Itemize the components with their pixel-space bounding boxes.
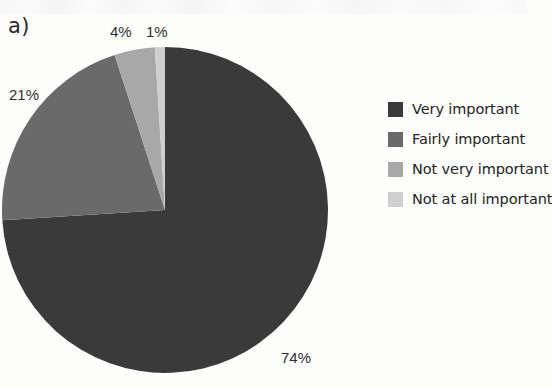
legend-item-not-at-all-important: Not at all important <box>388 184 524 214</box>
legend-item-label: Not very important <box>412 161 549 177</box>
legend-item-very-important: Very important <box>388 94 524 124</box>
pie-value-label-fairly-important: 21% <box>9 86 39 103</box>
legend-swatch-icon <box>388 132 403 147</box>
legend-swatch-icon <box>388 102 403 117</box>
pie-value-label-not-at-all-important: 1% <box>146 23 168 40</box>
pie-slice-group <box>2 47 328 373</box>
pie-chart <box>0 0 360 388</box>
legend-swatch-icon <box>388 162 403 177</box>
legend-item-fairly-important: Fairly important <box>388 124 524 154</box>
legend-swatch-icon <box>388 192 403 207</box>
legend-item-label: Not at all important <box>412 191 552 207</box>
pie-value-label-very-important: 74% <box>281 349 311 366</box>
pie-value-label-not-very-important: 4% <box>110 23 132 40</box>
pie-chart-svg <box>0 0 360 388</box>
legend-item-not-very-important: Not very important <box>388 154 524 184</box>
legend: Very important Fairly important Not very… <box>388 94 524 214</box>
legend-item-label: Very important <box>412 101 519 117</box>
legend-item-label: Fairly important <box>412 131 525 147</box>
